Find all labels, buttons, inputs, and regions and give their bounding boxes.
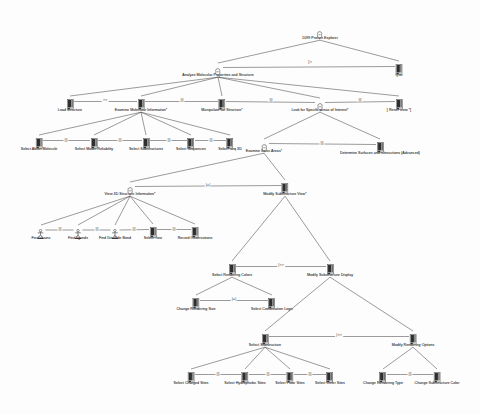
task-node-modifyview[interactable]: Modify Substructure View*	[263, 180, 306, 197]
task-node-finddisulfide[interactable]: Find Disulfide Bond	[99, 225, 131, 241]
tree-edge	[330, 277, 413, 331]
task-node-recordobs[interactable]: Record Observations	[178, 224, 213, 241]
abstract-task-icon	[316, 103, 325, 112]
task-node-charged[interactable]: Select Charged Sites	[174, 369, 209, 386]
tree-edge	[232, 277, 272, 295]
tree-edge	[218, 40, 320, 63]
task-node-reliability[interactable]: Select Model Reliability	[75, 135, 113, 152]
interaction-task-icon	[150, 224, 157, 235]
temporal-operator-label: |||	[265, 372, 270, 376]
interaction-task-icon	[379, 369, 386, 380]
task-node-lookfor[interactable]: Look for Specific Areas of Interest*	[292, 98, 349, 113]
interaction-task-icon	[67, 99, 74, 110]
task-node-reset[interactable]: [ Reset View *]	[387, 96, 411, 113]
interaction-task-icon	[241, 372, 248, 383]
tree-edge	[265, 347, 290, 369]
interaction-task-icon	[138, 99, 145, 110]
abstract-task-icon	[126, 187, 135, 196]
task-node-selecttour[interactable]: Select Tour	[144, 224, 162, 241]
temporal-operator-label: |>>	[335, 333, 343, 337]
interaction-task-icon	[150, 227, 157, 238]
interaction-task-icon	[410, 331, 417, 342]
interaction-task-icon	[188, 135, 195, 146]
interaction-task-icon	[268, 298, 275, 309]
abstract-task-icon	[259, 139, 268, 148]
tree-edge	[264, 112, 320, 139]
interaction-task-icon	[327, 261, 334, 272]
interaction-task-icon	[395, 99, 402, 110]
interaction-task-icon	[327, 264, 334, 275]
tree-edge	[141, 112, 146, 135]
task-node-other[interactable]: Select Other Sites	[315, 369, 345, 386]
interaction-task-icon	[228, 264, 235, 275]
interaction-task-icon	[193, 295, 200, 306]
interaction-task-icon	[90, 135, 97, 146]
abstract-task-icon	[126, 182, 135, 191]
tree-edge	[245, 347, 265, 369]
task-node-determine[interactable]: Determine Surfaces and Interactions (Adv…	[340, 139, 420, 156]
task-node-findligands[interactable]: Find ligands	[68, 225, 88, 241]
temporal-operator-label: |||	[94, 227, 99, 231]
task-node-manipulate[interactable]: Manipulate 3D Structure*	[201, 96, 242, 113]
tree-edge	[41, 196, 130, 225]
temporal-operator-label: [>	[307, 60, 312, 64]
interaction-task-icon	[192, 227, 199, 238]
temporal-operator-label: |||	[307, 372, 312, 376]
abstract-task-icon	[316, 31, 325, 40]
interaction-task-icon	[395, 96, 402, 107]
tree-edge	[320, 40, 399, 61]
task-node-renderingtype[interactable]: Change Rendering Type	[363, 369, 403, 386]
task-node-substructures[interactable]: Select Substructures	[129, 135, 163, 152]
tree-edge	[94, 112, 141, 135]
interaction-task-icon	[218, 99, 225, 110]
task-node-seq3d[interactable]: Select Seq 3D	[218, 135, 242, 152]
interaction-task-icon	[434, 369, 441, 380]
task-node-renderingoptions[interactable]: Modify Rendering Options	[392, 331, 435, 348]
tree-edge	[196, 277, 232, 295]
interaction-task-icon	[376, 139, 383, 150]
task-node-hydrophobic[interactable]: Select Hydrophobic Sites	[224, 369, 265, 386]
temporal-operator-label: |||	[117, 138, 122, 142]
tree-edge	[320, 112, 380, 139]
interaction-task-icon	[187, 372, 194, 383]
task-node-analyze[interactable]: Analyze Molecular Properties and Structu…	[182, 63, 253, 78]
task-node-combinatorial[interactable]: Select Combination Logic	[251, 295, 293, 312]
interaction-task-icon	[188, 138, 195, 149]
interaction-task-icon	[282, 180, 289, 191]
task-node-view3d[interactable]: View 3D Structure Information*	[105, 182, 156, 197]
task-node-about[interactable]: Select About Molecule	[21, 135, 58, 152]
user-task-icon	[111, 225, 119, 235]
interaction-task-icon	[286, 369, 293, 380]
interaction-task-icon	[142, 138, 149, 149]
interaction-task-icon	[268, 295, 275, 306]
tree-edge	[70, 77, 218, 96]
abstract-task-icon	[213, 68, 222, 77]
temporal-operator-label: >>	[102, 98, 109, 102]
tree-edge	[218, 77, 399, 96]
task-node-selectsubstructure[interactable]: Select Substructure	[249, 331, 281, 348]
task-node-quit[interactable]: Quit	[396, 61, 403, 78]
interaction-task-icon	[262, 331, 269, 342]
task-node-renderingcolors[interactable]: Select Rendering Colors	[212, 261, 252, 278]
tree-edge	[191, 347, 265, 369]
interaction-task-icon	[90, 138, 97, 149]
task-node-examinebasic[interactable]: Examine Basic Areas*	[246, 139, 282, 154]
task-node-substructcolor[interactable]: Change Substructure Color	[415, 369, 460, 386]
interaction-task-icon	[228, 261, 235, 272]
interaction-task-icon	[282, 183, 289, 194]
task-node-modifydisplay[interactable]: Modify Substructure Display	[307, 261, 353, 278]
task-node-load[interactable]: Load Structure	[58, 96, 82, 113]
tree-edge	[130, 196, 153, 224]
task-node-sequences[interactable]: Select Sequences	[176, 135, 206, 152]
task-node-findchains[interactable]: Find chains	[32, 225, 51, 241]
task-node-polar[interactable]: Select Polar Sites	[275, 369, 304, 386]
interaction-task-icon	[434, 372, 441, 383]
interaction-task-icon	[193, 298, 200, 309]
task-model-diagram: 1099 Protein ExplorerAnalyze Molecular P…	[0, 0, 480, 414]
temporal-operator-label: |||	[215, 372, 220, 376]
temporal-operator-label: |||	[166, 138, 171, 142]
interaction-task-icon	[218, 96, 225, 107]
task-node-examineinfo[interactable]: Examine Molecular Information*	[115, 96, 167, 113]
task-node-renderingsize[interactable]: Change Rendering Size	[176, 295, 215, 312]
task-node-root[interactable]: 1099 Protein Explorer	[302, 26, 338, 41]
